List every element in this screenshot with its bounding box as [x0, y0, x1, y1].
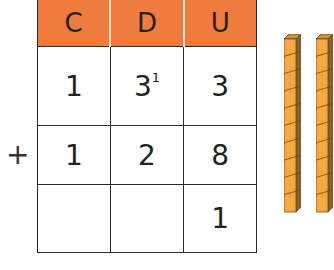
addend-2-row: 1 2 8: [38, 126, 257, 185]
addend-1-row: 1 31 3: [38, 47, 257, 126]
cell: 8: [184, 126, 257, 185]
cell: 1: [38, 126, 111, 185]
answer-cell-tens[interactable]: [110, 185, 183, 253]
answer-cell-units[interactable]: 1: [184, 185, 257, 253]
header-hundreds: C: [38, 0, 111, 47]
digit: 3: [134, 70, 152, 103]
header-row: C D U: [38, 0, 257, 47]
carry-digit: 1: [152, 70, 160, 85]
plus-sign: +: [6, 138, 29, 171]
cell: 1: [38, 47, 111, 126]
place-value-table: C D U 1 31 3 1 2 8 1: [37, 0, 257, 253]
answer-cell-hundreds[interactable]: [38, 185, 111, 253]
header-units: U: [184, 0, 257, 47]
header-tens: D: [110, 0, 183, 47]
ten-block-bar-icon: [284, 34, 301, 213]
cell: 2: [110, 126, 183, 185]
ten-block-bar-icon: [316, 34, 333, 213]
result-row[interactable]: 1: [38, 185, 257, 253]
cell: 3: [184, 47, 257, 126]
cell: 31: [110, 47, 183, 126]
